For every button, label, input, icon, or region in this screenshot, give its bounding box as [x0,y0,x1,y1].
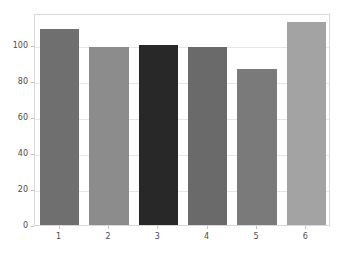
x-tick-mark-6 [305,226,306,229]
plot-area [34,14,330,226]
x-tick-label-3: 3 [142,232,172,241]
bars-container [35,15,329,225]
x-tick-mark-4 [207,226,208,229]
y-tick-mark-0 [31,226,34,227]
x-tick-mark-1 [59,226,60,229]
y-tick-label-100: 100 [2,41,28,50]
y-tick-label-60: 60 [2,113,28,122]
x-tick-label-2: 2 [93,232,123,241]
x-tick-label-5: 5 [241,232,271,241]
x-tick-mark-3 [157,226,158,229]
y-tick-label-80: 80 [2,77,28,86]
x-tick-label-4: 4 [192,232,222,241]
x-tick-label-1: 1 [44,232,74,241]
x-tick-mark-2 [108,226,109,229]
y-tick-label-20: 20 [2,185,28,194]
bar-chart-figure: 020406080100 123456 [0,0,347,257]
bar-6[interactable] [287,22,326,225]
bar-2[interactable] [89,47,128,225]
y-tick-label-40: 40 [2,149,28,158]
y-tick-label-0: 0 [2,221,28,230]
x-tick-label-6: 6 [290,232,320,241]
bar-3[interactable] [139,45,178,225]
bar-5[interactable] [237,69,276,225]
bar-4[interactable] [188,47,227,225]
x-tick-mark-5 [256,226,257,229]
bar-1[interactable] [40,29,79,225]
